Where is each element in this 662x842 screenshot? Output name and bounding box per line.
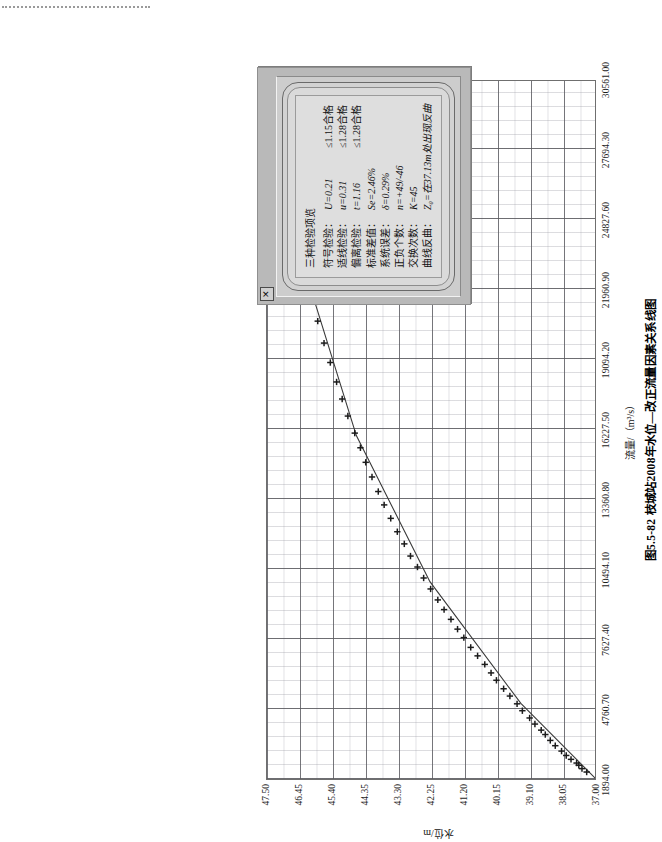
dialog-row-name: 适线检验： <box>336 210 350 268</box>
y-tick-label: 40.15 <box>492 784 502 826</box>
y-tick-label: 43.30 <box>393 784 403 826</box>
test-summary-dialog[interactable]: ✕ 三种检验项览 符号检验：U=0.21≤1.15合格适线检验：u=0.31≤1… <box>257 67 471 305</box>
dialog-row: 标准差值：Se=2.46% <box>364 105 378 268</box>
x-tick-label: 21960.90 <box>601 272 611 308</box>
dialog-row-value: Se=2.46% <box>364 148 378 210</box>
x-tick-label: 4760.70 <box>601 694 611 726</box>
x-tick-label: 30561.00 <box>601 62 611 98</box>
dialog-row-name: 正负个数： <box>392 210 406 268</box>
dialog-row: 偏离检验：t=1.16≤1.28合格 <box>350 105 364 268</box>
x-tick-label: 27694.30 <box>601 132 611 168</box>
dialog-row-value: K=45 <box>407 148 421 210</box>
dialog-row-name: 符号检验： <box>322 210 336 268</box>
x-tick-label: 7627.40 <box>601 624 611 656</box>
x-tick-label: 1894.00 <box>601 764 611 796</box>
y-tick-label: 38.05 <box>558 784 568 826</box>
dialog-heading: 三种检验项览 <box>302 105 317 268</box>
x-axis-title: 流量/（m³/s） <box>622 80 637 780</box>
dialog-row-value: Z₀=在37.13m处出现反曲 <box>421 148 435 210</box>
dialog-outer-bevel: 三种检验项览 符号检验：U=0.21≤1.15合格适线检验：u=0.31≤1.2… <box>282 82 455 291</box>
dialog-row-name: 标准差值： <box>364 210 378 268</box>
dialog-row-name: 偏离检验： <box>350 210 364 268</box>
dialog-row: 曲线反曲：Z₀=在37.13m处出现反曲 <box>421 105 435 268</box>
dialog-row-name: 曲线反曲： <box>421 210 435 268</box>
dialog-row-name: 交换次数： <box>407 210 421 268</box>
close-icon[interactable]: ✕ <box>260 287 274 301</box>
dialog-row-value: t=1.16 <box>350 148 364 210</box>
page-top-dotted-rule <box>2 6 150 10</box>
x-tick-label: 24827.60 <box>601 202 611 238</box>
x-tick-label: 13360.80 <box>601 482 611 518</box>
y-tick-label: 42.25 <box>426 784 436 826</box>
dialog-row-value: U=0.21 <box>322 148 336 210</box>
dialog-row: 正负个数：n=+49/-46 <box>392 105 406 268</box>
dialog-row-criterion: ≤1.28合格 <box>336 105 350 148</box>
figure-caption: 图5.5-82 枝城站2008年水位—改正流量因素关系线图 <box>642 80 658 780</box>
y-tick-label: 39.10 <box>525 784 535 826</box>
dialog-row: 交换次数：K=45 <box>407 105 421 268</box>
dialog-row-value: n=+49/-46 <box>392 148 406 210</box>
dialog-content-panel: 三种检验项览 符号检验：U=0.21≤1.15合格适线检验：u=0.31≤1.2… <box>295 95 442 278</box>
dialog-row-criterion: ≤1.28合格 <box>350 105 364 148</box>
dialog-row-value: u=0.31 <box>336 148 350 210</box>
dialog-titlebar[interactable]: ✕ <box>258 68 274 304</box>
dialog-row: 适线检验：u=0.31≤1.28合格 <box>336 105 350 268</box>
dialog-row-name: 系统误差： <box>378 210 392 268</box>
x-tick-label: 10494.10 <box>601 552 611 588</box>
y-axis-title: 水位/m <box>423 827 454 842</box>
dialog-inner-bevel: 三种检验项览 符号检验：U=0.21≤1.15合格适线检验：u=0.31≤1.2… <box>287 87 450 286</box>
dialog-row: 系统误差：δ=0.29% <box>378 105 392 268</box>
rotated-figure-container: 1894.004760.707627.4010494.1013360.80162… <box>250 0 662 832</box>
dialog-row-criterion: ≤1.15合格 <box>322 105 336 148</box>
y-tick-label: 41.20 <box>459 784 469 826</box>
dialog-frame: 三种检验项览 符号检验：U=0.21≤1.15合格适线检验：u=0.31≤1.2… <box>276 76 461 297</box>
x-tick-label: 19094.20 <box>601 342 611 378</box>
y-tick-label: 37.00 <box>591 784 601 826</box>
dialog-row: 符号检验：U=0.21≤1.15合格 <box>322 105 336 268</box>
y-tick-label: 46.45 <box>294 784 304 826</box>
y-tick-label: 45.40 <box>327 784 337 826</box>
dialog-row-value: δ=0.29% <box>378 148 392 210</box>
y-tick-label: 44.35 <box>360 784 370 826</box>
dialog-row-list: 符号检验：U=0.21≤1.15合格适线检验：u=0.31≤1.28合格偏离检验… <box>322 105 436 268</box>
x-tick-label: 16227.50 <box>601 412 611 448</box>
y-tick-label: 47.50 <box>261 784 271 826</box>
